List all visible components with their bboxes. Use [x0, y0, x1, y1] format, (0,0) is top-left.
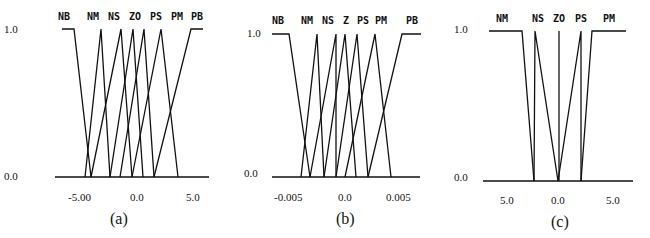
- panel-c: 1.0 0.0 NM NS ZO PS PM 5.0 0.0 5.0 (c): [454, 13, 633, 231]
- x-tick-left: 5.0: [500, 194, 514, 206]
- set-label-nb: NB: [272, 15, 284, 26]
- set-label-pm: PM: [171, 11, 183, 22]
- panel-caption: (b): [336, 210, 355, 228]
- set-label-zo: ZO: [553, 13, 565, 24]
- set-label-nm: NM: [496, 13, 508, 24]
- set-label-nm: NM: [301, 15, 313, 26]
- set-label-ps: PS: [357, 15, 369, 26]
- panel-a: 1.0 0.0 NB NM NS ZO PS PM PB -5.00 0.0 5…: [4, 11, 209, 228]
- set-label-ns: NS: [108, 11, 120, 22]
- x-tick-center: 0.0: [551, 194, 565, 206]
- set-label-ns: NS: [322, 15, 334, 26]
- x-tick-left: -0.005: [274, 191, 303, 203]
- x-tick-right: 5.0: [606, 194, 620, 206]
- y-tick-bottom: 0.0: [454, 171, 468, 183]
- mf-pm: [132, 29, 178, 177]
- y-tick-top: 1.0: [4, 23, 18, 35]
- set-label-zo: ZO: [129, 11, 141, 22]
- mf-nm: [301, 34, 324, 177]
- mf-pb: [154, 29, 203, 177]
- set-label-z: Z: [343, 15, 349, 26]
- set-label-ps: PS: [575, 13, 587, 24]
- set-label-ps: PS: [150, 11, 162, 22]
- x-tick-left: -5.00: [68, 191, 91, 203]
- mf-nb: [272, 34, 310, 177]
- mf-nb: [62, 29, 91, 177]
- mf-pm: [345, 34, 391, 177]
- x-tick-center: 0.0: [130, 191, 144, 203]
- y-tick-top: 1.0: [247, 27, 261, 39]
- set-label-pb: PB: [406, 15, 418, 26]
- set-label-pm: PM: [375, 15, 387, 26]
- y-tick-bottom: 0.0: [244, 167, 258, 179]
- y-tick-bottom: 0.0: [4, 170, 18, 182]
- set-label-pm: PM: [603, 13, 615, 24]
- mf-nm: [489, 31, 534, 181]
- set-label-nm: NM: [87, 11, 99, 22]
- mf-z: [324, 34, 356, 177]
- mf-ps: [558, 31, 581, 181]
- x-tick-right: 0.005: [386, 191, 411, 203]
- x-tick-right: 5.0: [186, 191, 200, 203]
- fuzzy-membership-figure: 1.0 0.0 NB NM NS ZO PS PM PB -5.00 0.0 5…: [0, 0, 650, 238]
- mf-pm: [581, 31, 626, 181]
- panel-b: 1.0 0.0 NB NM NS Z PS PM PB -0.005 0.0 0…: [244, 15, 421, 228]
- mf-pb: [368, 34, 421, 177]
- x-tick-center: 0.0: [338, 191, 352, 203]
- y-tick-top: 1.0: [454, 23, 468, 35]
- panel-caption: (c): [551, 213, 569, 231]
- mf-ps: [336, 34, 368, 177]
- set-label-pb: PB: [191, 11, 203, 22]
- panel-caption: (a): [110, 210, 128, 228]
- mf-ns: [534, 31, 558, 181]
- set-label-ns: NS: [532, 13, 544, 24]
- set-label-nb: NB: [58, 11, 70, 22]
- mf-ns: [91, 29, 132, 177]
